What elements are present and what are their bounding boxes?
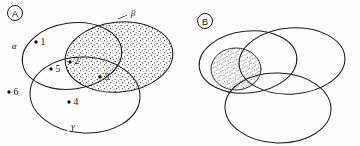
point-dot bbox=[49, 67, 52, 70]
panel-a: α β γ 1 2 3 4 5 bbox=[7, 6, 180, 136]
region-gamma-outline-b bbox=[224, 71, 332, 145]
point-dot bbox=[67, 100, 70, 103]
point-label: 6 bbox=[14, 87, 19, 97]
point-4: 4 bbox=[67, 97, 78, 107]
panel-badge-b: B bbox=[198, 14, 213, 29]
point-dot bbox=[68, 60, 71, 63]
point-1: 1 bbox=[34, 37, 45, 47]
badge-label: A bbox=[12, 9, 18, 19]
point-6: 6 bbox=[7, 87, 18, 97]
point-label: 1 bbox=[41, 37, 46, 47]
diagram-canvas: α β γ 1 2 3 4 5 bbox=[0, 0, 360, 146]
point-dot bbox=[98, 75, 101, 78]
point-dot bbox=[7, 90, 10, 93]
point-dot bbox=[34, 40, 37, 43]
panel-b: B bbox=[196, 14, 347, 145]
panel-badge-a: A bbox=[8, 6, 23, 21]
point-5: 5 bbox=[49, 64, 60, 74]
label-beta: β bbox=[130, 8, 136, 18]
point-label: 4 bbox=[74, 97, 79, 107]
label-alpha: α bbox=[12, 41, 17, 51]
label-gamma: γ bbox=[71, 121, 75, 131]
point-label: 2 bbox=[75, 56, 80, 66]
badge-label: B bbox=[202, 17, 208, 27]
point-label: 5 bbox=[56, 64, 61, 74]
venn-diagram-figure: α β γ 1 2 3 4 5 bbox=[0, 0, 360, 146]
point-label: 3 bbox=[105, 72, 110, 82]
